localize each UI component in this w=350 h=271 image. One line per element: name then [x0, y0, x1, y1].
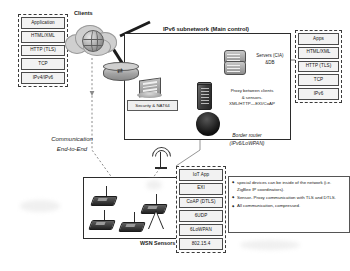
- router-arrows-icon: ⇄: [110, 67, 130, 75]
- notes-list: special devices can be inside of the net…: [232, 180, 346, 210]
- sensor-layer-iot-app: IoT App: [179, 169, 223, 181]
- sensor-protocol-stack: IoT App EXI CoAP (DTLS) 6UDP 6LoWPAN 802…: [176, 166, 226, 253]
- clients-label: Clients: [74, 10, 93, 16]
- stack-layer-http-tls: HTTP (TLS): [21, 45, 65, 57]
- border-router-line1: Border router: [232, 132, 261, 138]
- firewall-icon: [137, 77, 163, 99]
- sensor-mote: [92, 192, 114, 204]
- wsn-sensors-label: WSN Sensors: [140, 240, 175, 246]
- sensor-layer-exi: EXI: [179, 183, 223, 195]
- proxy-server-icon: [196, 84, 212, 110]
- border-router-line2: (IPv6/LoWPAN): [230, 140, 265, 146]
- note-item: Sensor- Proxy communication with TLS and…: [232, 195, 346, 202]
- stack-layer-application: Application: [21, 17, 65, 29]
- apps-layer-html-xml: HTML/XML: [298, 47, 339, 59]
- note-item: special devices can be inside of the net…: [232, 180, 346, 194]
- proxy-description-line2: & sensors.: [242, 95, 263, 100]
- proxy-description-line1: Proxy between clients: [231, 88, 274, 93]
- sensor-layer-802154: 802.15.4: [179, 238, 223, 250]
- wsn-sensors-box: [83, 177, 177, 239]
- sensor-layer-6lowpan: 6LoWPAN: [179, 224, 223, 236]
- clients-cloud-icon: [63, 22, 121, 58]
- ipv6-subnetwork-title: IPv6 subnetwork (Main control): [163, 26, 249, 32]
- communication-line1: Communication: [51, 136, 93, 142]
- apps-layer-ipv6: IPv6: [298, 88, 339, 100]
- apps-layer-tcp: TCP: [298, 74, 339, 86]
- apps-layer-apps: Apps: [298, 33, 339, 45]
- proxy-description-line3: XML/HTTP—EXI/CoAP: [229, 101, 275, 106]
- communication-line2: End-to-End: [57, 146, 87, 152]
- sensor-layer-coap-dtls: CoAP (DTLS): [179, 197, 223, 209]
- security-nat64-label: Security & NAT64: [127, 100, 178, 111]
- communication-end-to-end-label: Communication End-to-End: [26, 135, 118, 154]
- apps-protocol-stack: Apps HTML/XML HTTP (TLS) TCP IPv6: [295, 30, 342, 103]
- stack-layer-html-xml: HTML/XML: [21, 31, 65, 43]
- sensor-mote: [120, 218, 142, 230]
- apps-layer-http-tls: HTTP (TLS): [298, 61, 339, 73]
- notes-box: special devices can be inside of the net…: [228, 176, 350, 233]
- border-router-icon: [196, 112, 220, 128]
- stack-layer-ip: IPv4/IPv6: [21, 72, 65, 84]
- client-protocol-stack: Application HTML/XML HTTP (TLS) TCP IPv4…: [18, 14, 68, 87]
- border-router-label: Border router (IPv6/LoWPAN): [205, 132, 289, 147]
- servers-label: Servers (CIA) &DB: [249, 53, 291, 66]
- servers-icon: [224, 50, 246, 78]
- stack-layer-tcp: TCP: [21, 58, 65, 70]
- servers-label-line1: Servers (CIA): [256, 53, 283, 58]
- router-icon: ⇄: [103, 62, 137, 82]
- servers-label-line2: &DB: [265, 60, 274, 65]
- note-item: All communication, compressed.: [232, 203, 346, 210]
- wireless-antenna-icon: [150, 148, 172, 170]
- sensor-antenna-icon: [148, 210, 164, 229]
- sensor-mote: [90, 216, 112, 228]
- proxy-description: Proxy between clients & sensors. XML/HTT…: [216, 88, 288, 108]
- sensor-layer-6udp: 6UDP: [179, 210, 223, 222]
- globe-icon: [82, 30, 104, 52]
